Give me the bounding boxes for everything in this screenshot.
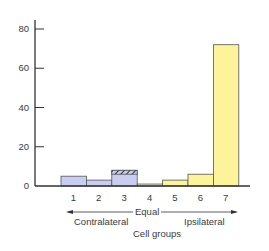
x-tick-label: 5 [172,192,177,203]
arrow-right-icon [231,210,238,214]
x-tick-label: 3 [122,192,127,203]
arrow-left-icon [66,210,73,214]
x-tick-label: 4 [147,192,152,203]
ipsilateral-label: Ipsilateral [184,216,225,227]
bars-group [61,45,239,186]
y-tick-label: 40 [18,102,29,113]
x-axis-title: Cell groups [133,228,181,239]
x-tick-label: 2 [96,192,101,203]
x-tick-label: 1 [71,192,76,203]
bar-hatched-segment [112,170,137,174]
bar-6 [188,174,213,186]
y-tick-label: 20 [18,141,29,152]
x-tick-label: 7 [223,192,228,203]
equal-label: Equal [133,206,161,217]
contralateral-label: Contralateral [74,216,128,227]
bar-2 [86,180,111,186]
bar-7 [213,45,238,186]
bar-5 [163,180,188,186]
y-tick-label: 0 [24,180,29,191]
y-tick-label: 60 [18,62,29,73]
y-tick-label: 80 [18,23,29,34]
x-tick-label: 6 [198,192,203,203]
bar-1 [61,176,86,186]
